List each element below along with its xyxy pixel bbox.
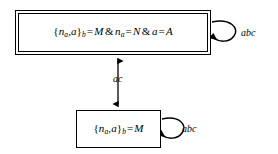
sub-a-2: a bbox=[121, 30, 125, 39]
state-node-plain[interactable]: {na,a}b=M bbox=[76, 110, 161, 148]
state-node-accepting[interactable]: {na,a}b=M&na=N&a=A bbox=[15, 10, 211, 55]
state-formula-accepting: {na,a}b=M&na=N&a=A bbox=[53, 26, 172, 38]
var-a-2: a bbox=[152, 25, 158, 37]
ampersand-2: & bbox=[140, 25, 152, 37]
ampersand-1: & bbox=[103, 25, 115, 37]
var-M-2: M bbox=[134, 122, 143, 134]
self-loop-plain-arrow bbox=[162, 118, 184, 138]
var-A: A bbox=[166, 25, 173, 37]
equals-2: = bbox=[125, 25, 133, 37]
self-loop-accepting-arrow bbox=[212, 21, 236, 41]
equals-3: = bbox=[158, 25, 166, 37]
equals-1: = bbox=[86, 25, 94, 37]
diagram-canvas: {na,a}b=M&na=N&a=A {na,a}b=M ac abc abc bbox=[0, 0, 278, 154]
edge-label-self-loop-plain: abc bbox=[182, 123, 196, 134]
edge-label-ac: ac bbox=[113, 73, 122, 84]
state-formula-plain: {na,a}b=M bbox=[93, 123, 143, 135]
double-border-inner-frame: {na,a}b=M&na=N&a=A bbox=[18, 13, 208, 52]
edge-label-self-loop-accepting: abc bbox=[241, 27, 255, 38]
